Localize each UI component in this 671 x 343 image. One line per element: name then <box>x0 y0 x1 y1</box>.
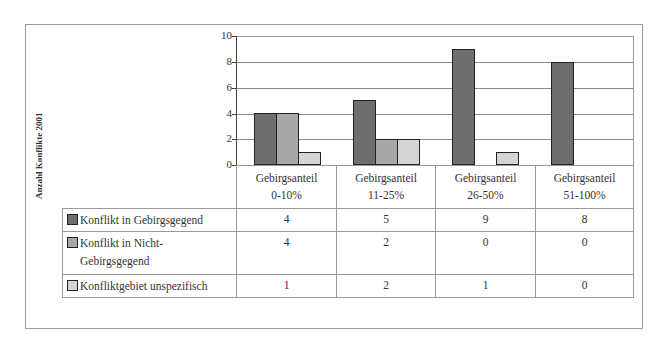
table-cell: 4 <box>236 208 337 232</box>
y-tick-2: 2 <box>212 132 232 144</box>
y-tick-8: 8 <box>212 55 232 67</box>
bar-gebirgsgegend-26-50 <box>452 49 475 165</box>
legend-label: Konfliktgebiet unspezifisch <box>80 280 207 292</box>
category-range: 26-50% <box>436 187 535 204</box>
y-tick-0: 0 <box>212 158 232 170</box>
bar-gebirgsgegend-11-25 <box>353 100 376 165</box>
legend-label: Konflikt in Gebirgsgegend <box>80 214 203 226</box>
plot-area <box>236 36 634 165</box>
bar-unspezifisch-0-10 <box>298 152 321 165</box>
y-tick-6: 6 <box>212 81 232 93</box>
legend-swatch-light-icon <box>67 280 78 291</box>
category-label: Gebirgsanteil <box>536 170 633 187</box>
tick-mark <box>232 114 237 115</box>
tick-mark <box>232 139 237 140</box>
legend-swatch-medium-icon <box>67 237 78 248</box>
category-label: Gebirgsanteil <box>337 170 435 187</box>
category-range: 11-25% <box>337 187 435 204</box>
legend-label: Konflikt in Nicht- <box>80 237 163 249</box>
table-cell: 0 <box>435 231 536 275</box>
category-range: 51-100% <box>536 187 633 204</box>
legend-label-continued: Gebirgsgegend <box>67 252 236 270</box>
table-cell: 2 <box>336 274 436 298</box>
category-range: 0-10% <box>237 187 336 204</box>
legend-row-gebirgsgegend: Konflikt in Gebirgsgegend <box>62 208 237 232</box>
legend-swatch-dark-icon <box>67 214 78 225</box>
tick-mark <box>232 62 237 63</box>
table-cell: 5 <box>336 208 436 232</box>
y-tick-4: 4 <box>212 107 232 119</box>
category-header-11-25: Gebirgsanteil 11-25% <box>336 165 436 209</box>
category-header-51-100: Gebirgsanteil 51-100% <box>535 165 634 209</box>
table-cell: 0 <box>535 231 634 275</box>
y-tick-10: 10 <box>212 29 232 41</box>
table-cell: 4 <box>236 231 337 275</box>
table-cell: 1 <box>236 274 337 298</box>
legend-row-unspezifisch: Konfliktgebiet unspezifisch <box>62 274 237 298</box>
bar-unspezifisch-26-50 <box>496 152 519 165</box>
bar-nicht-gebirgsgegend-0-10 <box>276 113 299 165</box>
bar-nicht-gebirgsgegend-11-25 <box>375 139 398 165</box>
table-cell: 1 <box>435 274 536 298</box>
category-header-26-50: Gebirgsanteil 26-50% <box>435 165 536 209</box>
table-cell: 2 <box>336 231 436 275</box>
tick-mark <box>232 36 237 37</box>
bar-unspezifisch-11-25 <box>397 139 420 165</box>
bar-gebirgsgegend-0-10 <box>254 113 277 165</box>
table-cell: 9 <box>435 208 536 232</box>
y-axis-label: Anzahl Konflikte 2001 <box>34 96 48 216</box>
table-cell: 0 <box>535 274 634 298</box>
tick-mark <box>232 88 237 89</box>
table-cell: 8 <box>535 208 634 232</box>
bar-gebirgsgegend-51-100 <box>551 62 574 165</box>
category-label: Gebirgsanteil <box>436 170 535 187</box>
legend-row-nicht-gebirgsgegend: Konflikt in Nicht- Gebirgsgegend <box>62 231 237 275</box>
category-header-0-10: Gebirgsanteil 0-10% <box>236 165 337 209</box>
category-label: Gebirgsanteil <box>237 170 336 187</box>
